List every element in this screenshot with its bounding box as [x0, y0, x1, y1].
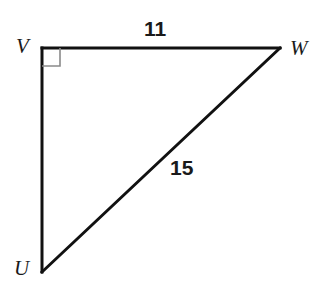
side-length-label-vw: 11 — [144, 18, 166, 39]
diagram-background — [0, 0, 335, 285]
triangle-diagram — [0, 0, 335, 285]
vertex-label-v: V — [16, 36, 29, 57]
figure-canvas: V W U 11 15 — [0, 0, 335, 285]
vertex-label-w: W — [290, 38, 308, 59]
vertex-label-u: U — [14, 258, 29, 279]
side-length-label-uw: 15 — [170, 157, 193, 178]
